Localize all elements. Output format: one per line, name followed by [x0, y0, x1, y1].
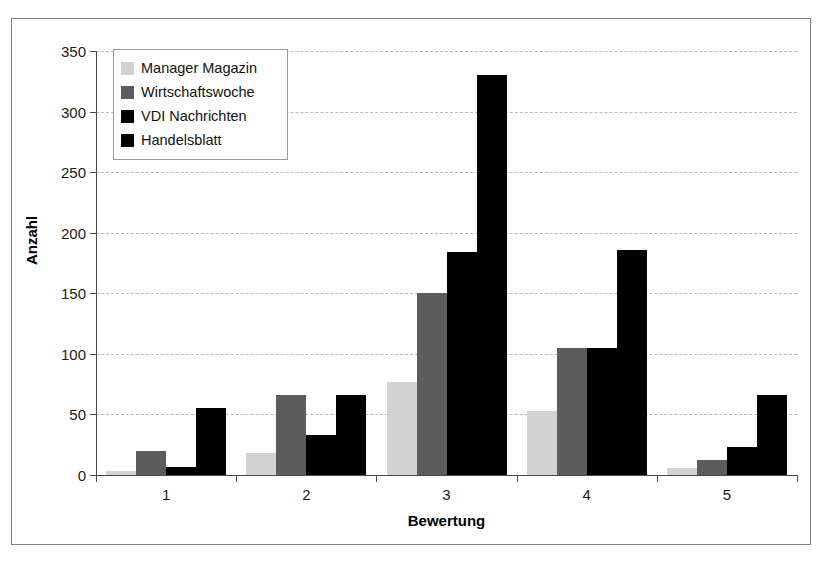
bar: [106, 471, 136, 475]
x-axis-tick-mark: [517, 475, 518, 482]
legend-item-label: Wirtschaftswoche: [141, 85, 255, 100]
x-axis-tick-mark: [376, 475, 377, 482]
y-axis-title: Anzahl: [23, 196, 40, 286]
y-axis-tick-label: 250: [38, 164, 86, 181]
x-axis-tick-label: 3: [417, 486, 477, 503]
x-axis-tick-mark: [657, 475, 658, 482]
bar: [617, 250, 647, 475]
bar: [336, 395, 366, 475]
bar: [727, 447, 757, 475]
bar: [557, 348, 587, 475]
bar: [757, 395, 787, 475]
legend-swatch-icon: [121, 86, 134, 99]
bar: [166, 467, 196, 475]
legend-item: Wirtschaftswoche: [121, 80, 279, 104]
chart-legend: Manager MagazinWirtschaftswocheVDI Nachr…: [113, 49, 288, 160]
chart-figure: 050100150200250300350 Anzahl 12345 Bewer…: [0, 0, 827, 565]
legend-item-label: Handelsblatt: [141, 133, 222, 148]
bar: [527, 411, 557, 475]
y-axis-tick-label: 200: [38, 224, 86, 241]
legend-swatch-icon: [121, 134, 134, 147]
bar: [196, 408, 226, 475]
x-axis-tick-label: 4: [557, 486, 617, 503]
bar: [276, 395, 306, 475]
x-axis-tick-label: 5: [697, 486, 757, 503]
x-axis-tick-mark: [797, 475, 798, 482]
legend-item-label: Manager Magazin: [141, 61, 257, 76]
bar: [306, 435, 336, 475]
bar: [447, 252, 477, 475]
legend-swatch-icon: [121, 62, 134, 75]
bar: [136, 451, 166, 475]
x-axis-tick-label: 1: [136, 486, 196, 503]
bar: [387, 382, 417, 475]
bar: [417, 293, 447, 475]
x-axis-title: Bewertung: [96, 512, 797, 529]
y-axis-tick-label: 350: [38, 43, 86, 60]
y-axis-tick-label: 150: [38, 285, 86, 302]
x-axis-tick-mark: [236, 475, 237, 482]
x-axis-tick-mark: [96, 475, 97, 482]
y-axis-tick-label: 0: [38, 467, 86, 484]
bar: [667, 468, 697, 475]
legend-item: Manager Magazin: [121, 56, 279, 80]
bar: [697, 460, 727, 475]
legend-swatch-icon: [121, 110, 134, 123]
y-axis-tick-label: 100: [38, 345, 86, 362]
x-axis-tick-label: 2: [276, 486, 336, 503]
bar: [246, 453, 276, 475]
bar: [477, 75, 507, 475]
y-axis-tick-label: 50: [38, 406, 86, 423]
x-axis-line: [96, 475, 797, 476]
bar: [587, 348, 617, 475]
y-axis-tick-label: 300: [38, 103, 86, 120]
legend-item: Handelsblatt: [121, 128, 279, 152]
legend-item: VDI Nachrichten: [121, 104, 279, 128]
legend-item-label: VDI Nachrichten: [141, 109, 247, 124]
